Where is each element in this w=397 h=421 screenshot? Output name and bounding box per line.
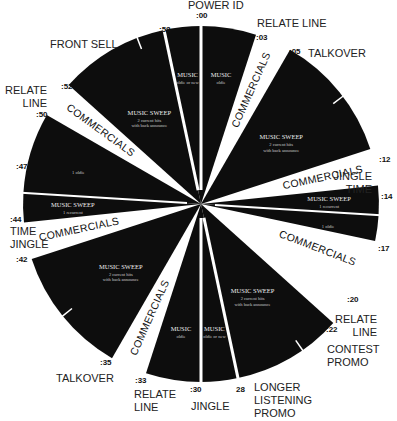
segment-subtitle: 2 current hits: [269, 142, 293, 147]
segment-subtitle: 2 current hits: [109, 272, 133, 277]
event-label: RELATE LINE: [257, 17, 327, 29]
segment-subtitle: with back announce: [103, 277, 139, 282]
segment-title: MUSIC: [211, 71, 232, 78]
event-label: PROMO: [254, 407, 296, 419]
event-label: POWER ID: [188, 0, 244, 11]
segment-subtitle: oldie or new: [176, 80, 199, 85]
event-label: LISTENING: [254, 394, 312, 406]
segment-subtitle: oldie or new: [203, 334, 226, 339]
event-label: FRONT SELL: [50, 38, 118, 50]
minute-mark: :52: [61, 82, 73, 91]
event-label: TALKOVER: [308, 47, 366, 59]
segment-title: MUSIC: [204, 325, 225, 332]
event-label: PROMO: [327, 356, 369, 368]
format-clock: MUSIColdieMUSIC SWEEP2 current hitswith …: [0, 0, 397, 421]
event-label: CONTEST: [327, 343, 380, 355]
minute-mark: :47: [16, 162, 28, 171]
event-label: JINGLE: [10, 238, 49, 250]
segment-title: MUSIC SWEEP: [128, 109, 172, 116]
event-label: TIME: [346, 183, 372, 195]
minute-mark: :14: [381, 192, 393, 201]
segment-title: MUSIC: [171, 325, 192, 332]
segment-title: MUSIC SWEEP: [307, 195, 351, 202]
segment-title: MUSIC: [177, 71, 198, 78]
minute-mark: :17: [378, 244, 390, 253]
minute-mark: :58: [159, 25, 171, 34]
minute-mark: :44: [10, 215, 22, 224]
minute-mark: :22: [326, 325, 338, 334]
event-label: LONGER: [254, 381, 301, 393]
segment-subtitle: 2 current hits: [241, 296, 265, 301]
event-label: RELATE: [335, 313, 377, 325]
event-label: LINE: [23, 97, 47, 109]
segment-title: MUSIC SWEEP: [231, 287, 275, 294]
minute-mark: :00: [196, 11, 208, 20]
minute-mark: :33: [135, 376, 147, 385]
event-label: RELATE: [134, 388, 176, 400]
event-label: TALKOVER: [56, 372, 114, 384]
event-label: JINGLE: [333, 170, 372, 182]
segment-title: MUSIC SWEEP: [259, 133, 303, 140]
minute-mark: :12: [379, 155, 391, 164]
segment-subtitle: oldie: [217, 80, 226, 85]
segment-subtitle: with back announce: [131, 123, 167, 128]
segment-title: MUSIC SWEEP: [99, 263, 143, 270]
minute-mark: :35: [100, 358, 112, 367]
segment-subtitle: with back announce: [263, 148, 299, 153]
segment-subtitle: oldie: [176, 334, 185, 339]
event-label: LINE: [134, 401, 158, 413]
minute-mark: :30: [190, 385, 202, 394]
event-label: RELATE: [5, 84, 47, 96]
segment-subtitle: 1 oldie: [322, 224, 334, 229]
segment-subtitle: 1 oldie: [72, 170, 84, 175]
event-label: JINGLE: [191, 400, 230, 412]
segment-subtitle: with back announce: [235, 302, 271, 307]
minute-mark: 28: [236, 385, 245, 394]
minute-mark: :50: [36, 110, 48, 119]
segment-title: MUSIC SWEEP: [51, 201, 95, 208]
minute-mark: :05: [289, 47, 301, 56]
minute-mark: :42: [16, 255, 28, 264]
minute-mark: :03: [256, 33, 268, 42]
event-label: LINE: [353, 326, 377, 338]
segment-subtitle: 1 recurrent: [319, 204, 339, 209]
segment-subtitle: 2 current hits: [138, 118, 162, 123]
event-label: TIME: [10, 225, 36, 237]
minute-mark: :20: [347, 295, 359, 304]
segment-subtitle: 1 recurrent: [63, 210, 83, 215]
